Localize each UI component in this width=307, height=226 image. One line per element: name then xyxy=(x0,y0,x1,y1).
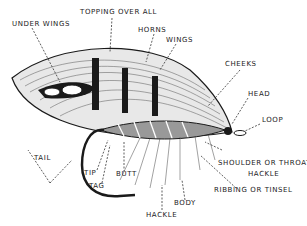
wing-bar xyxy=(122,68,128,113)
label-head: HEAD xyxy=(248,90,270,98)
wing-bar xyxy=(152,76,158,116)
label-ribbing: RIBBING OR TINSEL xyxy=(214,186,293,194)
label-cheeks: CHEEKS xyxy=(225,60,257,68)
wing-bar xyxy=(92,58,99,110)
label-body: BODY xyxy=(174,199,196,207)
label-wings: WINGS xyxy=(166,36,193,44)
label-shoulder-hackle: HACKLE xyxy=(248,170,279,178)
label-tag: TAG xyxy=(89,182,105,190)
label-horns: HORNS xyxy=(138,26,166,34)
label-under-wings: UNDER WINGS xyxy=(12,20,70,28)
label-topping: TOPPING OVER ALL xyxy=(80,8,157,16)
label-shoulder: SHOULDER OR THROAT xyxy=(218,159,307,167)
label-loop: LOOP xyxy=(262,116,283,124)
label-butt: BUTT xyxy=(116,170,137,178)
loop xyxy=(234,131,246,136)
label-tip: TIP xyxy=(84,169,96,177)
label-tail: TAIL xyxy=(34,154,51,162)
head xyxy=(224,127,232,135)
label-hackle: HACKLE xyxy=(146,211,177,219)
